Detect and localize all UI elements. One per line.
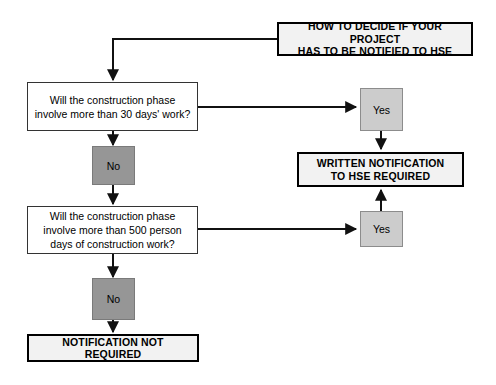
outcome-notification-not-required-label: NOTIFICATION NOT REQUIRED [29,336,197,361]
question-box-30-days: Will the construction phase involve more… [27,82,198,131]
outcome-notification-not-required: NOTIFICATION NOT REQUIRED [27,334,199,362]
yes-chip-30-days: Yes [360,88,403,131]
no-chip-500-person-days: No [92,278,135,320]
yes-chip-30-days-label: Yes [369,104,394,116]
question-box-500-person-days: Will the construction phase involve more… [27,206,198,254]
outcome-written-notification-label: WRITTEN NOTIFICATION TO HSE REQUIRED [313,157,449,182]
question-box-30-days-label: Will the construction phase involve more… [31,93,195,121]
no-chip-30-days: No [92,146,135,185]
no-chip-30-days-label: No [103,160,124,172]
flowchart-canvas: HOW TO DECIDE IF YOUR PROJECT HAS TO BE … [0,0,496,385]
connector-layer [0,0,496,385]
yes-chip-500-person-days-label: Yes [369,223,394,235]
title-box: HOW TO DECIDE IF YOUR PROJECT HAS TO BE … [277,22,473,56]
no-chip-500-person-days-label: No [103,293,124,305]
outcome-written-notification: WRITTEN NOTIFICATION TO HSE REQUIRED [297,152,464,187]
question-box-500-person-days-label: Will the construction phase involve more… [39,209,185,251]
connector-title-to-question1 [113,39,277,80]
yes-chip-500-person-days: Yes [360,211,403,247]
title-box-label: HOW TO DECIDE IF YOUR PROJECT HAS TO BE … [279,20,471,58]
